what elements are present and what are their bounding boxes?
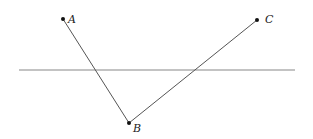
label-a: A bbox=[67, 13, 76, 26]
point-a bbox=[61, 17, 65, 21]
label-c: C bbox=[265, 13, 274, 26]
segment-ab bbox=[63, 19, 129, 123]
point-b bbox=[127, 121, 131, 125]
segment-bc bbox=[129, 20, 257, 123]
diagram-canvas: A B C bbox=[0, 0, 313, 139]
point-c bbox=[255, 18, 259, 22]
label-b: B bbox=[132, 122, 141, 135]
